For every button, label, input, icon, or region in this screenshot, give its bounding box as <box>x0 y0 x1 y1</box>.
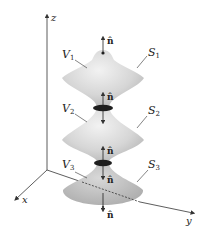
normal-label-1: n̂ <box>107 92 114 102</box>
surface-label-s2: S2 <box>148 104 160 118</box>
surface-label-s3: S3 <box>148 158 160 172</box>
y-axis-back <box>47 170 82 182</box>
y-axis-label: y <box>185 215 192 226</box>
x-axis <box>16 170 47 199</box>
volume-label-v1: V1 <box>62 48 74 62</box>
normal-label-top: n̂ <box>107 36 114 46</box>
y-axis-front <box>140 202 193 213</box>
normal-label-2: n̂ <box>107 146 114 156</box>
z-axis-label: z <box>50 12 57 23</box>
normal-label-3: n̂ <box>107 175 114 185</box>
volume-label-v2: V2 <box>62 102 74 116</box>
normal-label-bottom: n̂ <box>107 210 114 220</box>
x-axis-label: x <box>22 194 28 205</box>
volume-label-v3: V3 <box>62 158 74 172</box>
surface-label-s1: S1 <box>148 46 160 60</box>
diagram-canvas: z x y V1 V2 V3 S1 S2 S3 n̂ n̂ n̂ n̂ n̂ <box>0 0 204 236</box>
